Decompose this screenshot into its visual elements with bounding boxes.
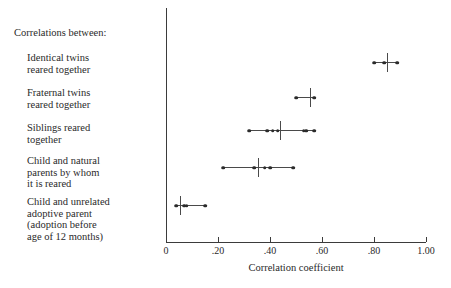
x-axis-tick — [218, 237, 219, 242]
series-median-tick — [310, 88, 311, 107]
x-axis-tick-label: .20 — [212, 245, 225, 257]
data-point — [276, 129, 280, 133]
x-axis-title: Correlation coefficient — [248, 262, 343, 273]
data-point — [305, 129, 309, 133]
correlation-dot-plot-figure: Correlations between: Identical twins re… — [0, 0, 451, 288]
x-axis-tick — [166, 237, 167, 242]
data-point — [383, 61, 387, 65]
x-axis-tick-label: .60 — [316, 245, 329, 257]
data-point — [268, 166, 272, 170]
x-axis-line — [166, 242, 426, 243]
x-axis-tick — [426, 237, 427, 242]
series-median-tick — [180, 196, 181, 215]
x-axis-tick — [322, 237, 323, 242]
series-median-tick — [258, 158, 259, 177]
x-axis-tick — [374, 237, 375, 242]
data-point — [271, 129, 275, 133]
data-point — [294, 96, 298, 100]
data-point — [292, 166, 296, 170]
x-axis-tick-label: .40 — [264, 245, 277, 257]
data-point — [247, 129, 251, 133]
data-point — [253, 166, 257, 170]
data-point — [266, 129, 270, 133]
x-axis-tick-label: 1.00 — [417, 245, 435, 257]
data-point — [312, 96, 316, 100]
data-point — [312, 129, 316, 133]
x-axis-tick-label: .80 — [368, 245, 381, 257]
data-point — [396, 61, 400, 65]
data-point — [185, 204, 189, 208]
plot-area: 0.20.40.60.801.00 Correlation coefficien… — [0, 0, 451, 288]
series-median-tick — [387, 53, 388, 72]
data-point — [203, 204, 207, 208]
data-point — [221, 166, 225, 170]
series-median-tick — [280, 121, 281, 140]
data-point — [372, 61, 376, 65]
data-point — [263, 166, 267, 170]
x-axis-tick — [270, 237, 271, 242]
y-axis-line — [166, 8, 167, 242]
data-point — [175, 204, 179, 208]
x-axis-tick-label: 0 — [164, 245, 169, 257]
